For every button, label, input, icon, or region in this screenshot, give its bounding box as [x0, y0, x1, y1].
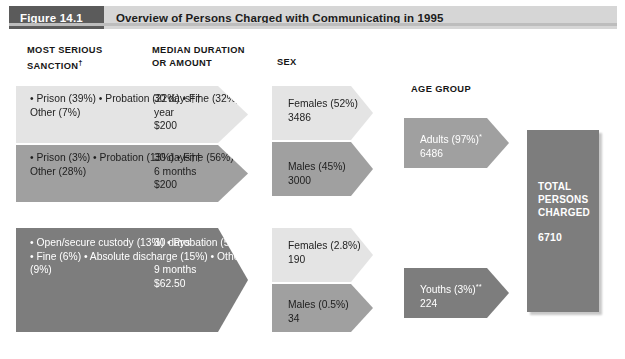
- age-block-adults[interactable]: Adults (97%)*6486: [404, 118, 509, 168]
- sex-block-body: Females (2.8%) 190: [272, 228, 373, 282]
- age-value-adults: 6486: [420, 148, 443, 159]
- duration-values-3: 30 days 9 months $62.50: [154, 236, 196, 290]
- sanction-block-body: • Prison (39%) • Probation (22%) • Fine …: [16, 86, 248, 143]
- sex-block-females-adult[interactable]: Females (52%) 3486: [272, 86, 373, 140]
- column-header-duration: MEDIAN DURATION OR AMOUNT: [152, 44, 245, 69]
- sanction-items-2: • Prison (3%) • Probation (13%) • Fine (…: [30, 151, 248, 178]
- age-value-youths: 224: [420, 298, 437, 309]
- sanction-block-adult-light[interactable]: • Prison (39%) • Probation (22%) • Fine …: [16, 86, 248, 143]
- age-block-youths[interactable]: Youths (3%)**224: [404, 268, 509, 318]
- duration-values-2: 30 days†† 6 months $200: [154, 151, 202, 192]
- sex-block-body: Males (45%) 3000: [272, 142, 373, 196]
- sanction-block-adult-mid[interactable]: • Prison (3%) • Probation (13%) • Fine (…: [16, 145, 248, 202]
- total-persons-charged-box[interactable]: TOTAL PERSONS CHARGED 6710: [527, 130, 599, 312]
- age-label-youths-text: Youths (3%): [420, 284, 476, 295]
- sex-block-males-youth[interactable]: Males (0.5%) 34: [272, 284, 373, 332]
- sex-label-females-youth: Females (2.8%) 190: [288, 239, 361, 267]
- age-block-body: Youths (3%)**224: [404, 268, 509, 318]
- duration-values-1: 30 days†† year $200: [154, 92, 202, 133]
- column-header-age-group: AGE GROUP: [411, 83, 471, 96]
- sex-block-males-adult[interactable]: Males (45%) 3000: [272, 142, 373, 196]
- total-label: TOTAL PERSONS CHARGED: [538, 180, 590, 219]
- age-block-body: Adults (97%)*6486: [404, 118, 509, 168]
- sex-label-females-adult: Females (52%) 3486: [288, 97, 358, 125]
- age-label-adults-text: Adults (97%): [420, 134, 479, 145]
- total-value: 6710: [538, 231, 562, 243]
- sex-block-body: Females (52%) 3486: [272, 86, 373, 140]
- sanction-block-body: • Prison (3%) • Probation (13%) • Fine (…: [16, 145, 248, 202]
- column-header-sanction-text: MOST SERIOUS SANCTION: [27, 45, 102, 71]
- column-header-sex: SEX: [277, 56, 297, 69]
- column-header-sanction: MOST SERIOUS SANCTION†: [27, 44, 102, 72]
- sanction-block-body: • Open/secure custody (13%) • Probation …: [16, 228, 248, 332]
- sanction-items-1: • Prison (39%) • Probation (22%) • Fine …: [30, 92, 248, 119]
- sex-label-males-youth: Males (0.5%) 34: [288, 298, 349, 326]
- sex-block-body: Males (0.5%) 34: [272, 284, 373, 332]
- sanction-items-3: • Open/secure custody (13%) • Probation …: [30, 236, 248, 277]
- sanction-dagger-icon: †: [78, 58, 83, 67]
- header-divider: [9, 23, 617, 26]
- youths-footnote-marker-icon: **: [476, 282, 482, 291]
- age-label-youths: Youths (3%)**224: [420, 280, 482, 311]
- sanction-block-youth-dark[interactable]: • Open/secure custody (13%) • Probation …: [16, 228, 248, 332]
- sex-block-females-youth[interactable]: Females (2.8%) 190: [272, 228, 373, 282]
- age-label-adults: Adults (97%)*6486: [420, 130, 482, 161]
- sex-label-males-adult: Males (45%) 3000: [288, 160, 346, 188]
- adults-footnote-marker-icon: *: [479, 132, 482, 141]
